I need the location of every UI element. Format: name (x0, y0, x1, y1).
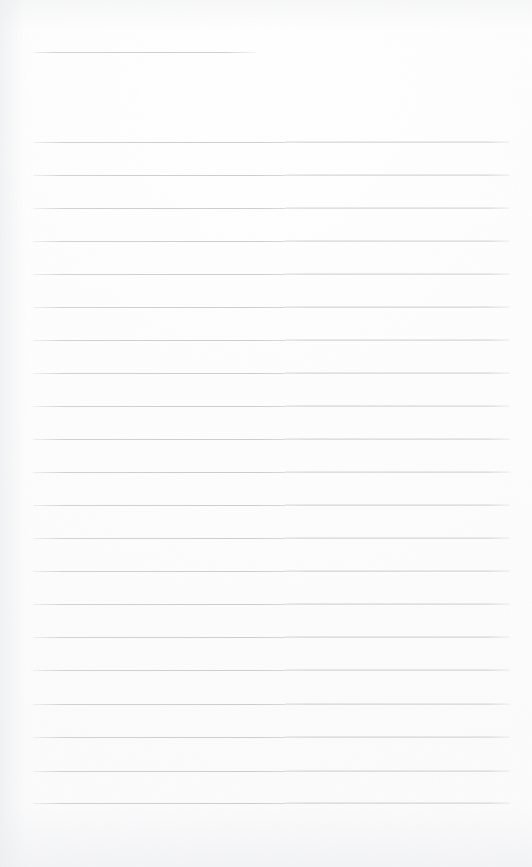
ruled-line (33, 406, 510, 407)
rule-segment-left (33, 472, 285, 473)
rule-segment-left (33, 670, 285, 671)
ruled-line (33, 637, 510, 638)
ruled-line (33, 142, 510, 143)
rule-segment-right (285, 208, 510, 209)
rule-segment-right (285, 241, 510, 242)
rule-segment-right (285, 175, 510, 176)
ruled-line (33, 803, 510, 804)
ruled-line (33, 704, 510, 705)
rule-segment-right (285, 406, 510, 407)
ruled-line (33, 175, 510, 176)
ruled-line (33, 737, 510, 738)
rule-segment-left (33, 439, 285, 440)
ruled-line (33, 340, 510, 341)
rule-segment-right (285, 472, 510, 473)
rule-segment-left (33, 274, 285, 275)
ruled-line (33, 208, 510, 209)
rule-segment-left (33, 241, 285, 242)
rule-segment-left (33, 771, 285, 772)
rule-segment-left (33, 142, 285, 143)
rule-segment-left (33, 208, 285, 209)
rule-segment-right (285, 274, 510, 275)
rule-segment-right (285, 704, 510, 705)
ruled-line (33, 241, 510, 242)
rule-segment-left (33, 637, 285, 638)
rule-segment-right (285, 439, 510, 440)
rule-segment-left (33, 406, 285, 407)
ruled-line (33, 505, 510, 506)
rule-segment-right (285, 505, 510, 506)
ruled-line (33, 373, 510, 374)
rule-segment-right (285, 803, 510, 804)
ruled-line (33, 538, 510, 539)
ruled-line (33, 670, 510, 671)
ruled-lines-layer (0, 0, 532, 867)
rule-segment-left (33, 803, 285, 804)
ruled-line (33, 571, 510, 572)
rule-segment-left (33, 538, 285, 539)
rule-segment-left (33, 737, 285, 738)
ruled-line (33, 771, 510, 772)
rule-segment-right (285, 637, 510, 638)
rule-segment-left (33, 307, 285, 308)
rule-segment-right (285, 571, 510, 572)
ruled-line (33, 604, 510, 605)
rule-segment-right (285, 142, 510, 143)
ruled-line (33, 274, 510, 275)
scanned-page (0, 0, 532, 867)
rule-segment-left (33, 704, 285, 705)
rule-segment-right (285, 604, 510, 605)
rule-segment-left (33, 604, 285, 605)
ruled-line (33, 307, 510, 308)
ruled-line (33, 439, 510, 440)
ruled-line (33, 472, 510, 473)
rule-segment-right (285, 771, 510, 772)
rule-segment-right (285, 670, 510, 671)
rule-segment-right (285, 307, 510, 308)
rule-segment-left (33, 340, 285, 341)
rule-segment-left (33, 505, 285, 506)
rule-segment-left (33, 571, 285, 572)
rule-segment-right (285, 737, 510, 738)
rule-segment-left (33, 175, 285, 176)
rule-segment-right (285, 340, 510, 341)
rule-segment-left (33, 373, 285, 374)
rule-segment-right (285, 538, 510, 539)
rule-segment-right (285, 373, 510, 374)
